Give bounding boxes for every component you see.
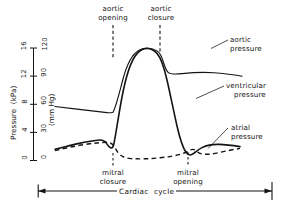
y-tick-label-kpa-16: 16 [21,42,28,54]
mitral-closure-label-line2: closure [85,178,141,186]
y-tick-label-kpa-8: 8 [22,99,29,109]
aortic-closure-label-line2: closure [133,14,189,22]
ventricular-pressure-curve [55,48,240,155]
y-tick-label-kpa-4: 4 [22,127,29,137]
atrial-pressure-label-line2: pressure [231,133,263,141]
ventricular-pressure-leader [196,86,224,99]
aortic-pressure-label-line2: pressure [230,45,262,53]
y-axis-title-mmhg: (mm Hg) [47,94,56,126]
y-tick-label-mmhg-0: 0 [41,155,48,166]
y-axis-title-kpa: Pressure (kPa) [9,86,18,140]
mitral-opening-label-line2: opening [160,178,216,186]
y-tick-label-mmhg-90: 90 [41,68,48,83]
cardiac-cycle-arrowhead-right [265,188,273,193]
cardiac-cycle-label: Cardiac cycle [117,187,176,196]
aortic-pressure-leader [211,40,228,49]
y-tick-label-mmhg-120: 120 [42,38,49,56]
y-tick-label-mmhg-30: 30 [41,124,48,139]
y-tick-label-kpa-12: 12 [21,70,28,82]
cardiac-cycle-pressure-figure: Pressure (kPa) (mm Hg) 16 12 8 4 0 120 9… [0,0,286,211]
aortic-pressure-curve [55,48,242,113]
y-tick-label-kpa-0: 0 [22,155,29,165]
ventricular-pressure-label-line2: pressure [234,91,266,99]
y-tick-label-mmhg-60: 60 [41,96,48,111]
cardiac-cycle-arrowhead-left [38,188,46,193]
